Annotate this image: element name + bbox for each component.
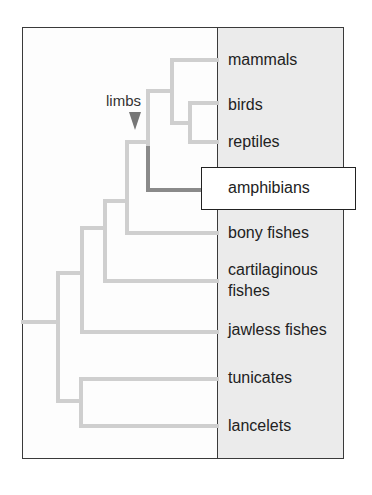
taxon-tunicates: tunicates <box>228 368 292 387</box>
amphibian-branch <box>148 146 201 190</box>
taxon-mammals: mammals <box>228 50 297 69</box>
taxon-cartilaginous-fishes-line2: fishes <box>228 281 270 300</box>
limbs-marker-icon <box>129 112 141 130</box>
limbs-annotation: limbs <box>106 92 141 109</box>
taxon-jawless-fishes: jawless fishes <box>228 320 327 339</box>
taxon-lancelets: lancelets <box>228 416 291 435</box>
taxon-bony-fishes: bony fishes <box>228 223 309 242</box>
taxon-birds: birds <box>228 95 263 114</box>
cladogram-tree <box>0 0 372 495</box>
taxon-amphibians: amphibians <box>228 179 310 197</box>
taxon-reptiles: reptiles <box>228 132 280 151</box>
taxon-cartilaginous-fishes-line1: cartilaginous <box>228 260 318 279</box>
